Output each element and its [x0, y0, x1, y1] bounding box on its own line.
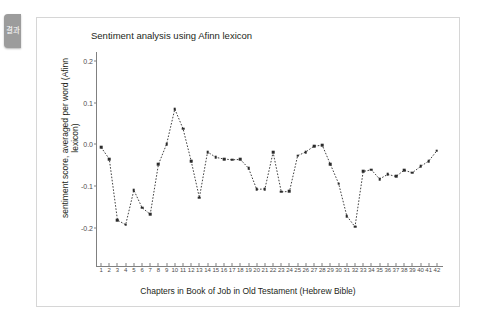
x-axis-tick-label: 28 — [319, 267, 326, 273]
data-point — [247, 167, 250, 170]
y-axis-tick-mark — [94, 61, 97, 62]
x-axis-tick-label: 3 — [116, 267, 119, 273]
x-axis-tick-mark — [305, 263, 306, 266]
data-point — [386, 173, 389, 176]
x-axis-tick-label: 24 — [286, 267, 293, 273]
x-axis-tick-label: 42 — [434, 267, 441, 273]
x-axis-tick-mark — [142, 263, 143, 266]
data-point — [190, 160, 193, 163]
x-axis-tick-mark — [387, 263, 388, 266]
x-axis-tick-label: 8 — [157, 267, 160, 273]
x-axis-tick-mark — [314, 263, 315, 266]
data-point — [223, 158, 226, 161]
x-axis-tick-mark — [256, 263, 257, 266]
data-point — [157, 163, 160, 166]
data-point — [436, 149, 439, 152]
x-axis-tick-mark — [436, 263, 437, 266]
data-point — [305, 151, 308, 154]
chart-panel: Sentiment analysis using Afinn lexicon s… — [36, 17, 460, 307]
data-point — [108, 158, 111, 161]
x-axis-tick-label: 39 — [409, 267, 416, 273]
x-axis-tick-mark — [330, 263, 331, 266]
data-point — [239, 158, 242, 161]
data-point — [427, 160, 430, 163]
x-axis-tick-label: 9 — [165, 267, 168, 273]
data-point — [100, 146, 103, 149]
x-axis-tick-mark — [371, 263, 372, 266]
x-axis-tick-mark — [133, 263, 134, 266]
data-point — [124, 223, 127, 226]
x-axis-tick-label: 31 — [343, 267, 350, 273]
x-axis-tick-mark — [191, 263, 192, 266]
x-axis-tick-label: 13 — [196, 267, 203, 273]
y-axis-tick-mark — [94, 102, 97, 103]
x-axis-tick-mark — [355, 263, 356, 266]
series-polyline — [97, 55, 441, 263]
data-point — [370, 169, 373, 172]
data-point — [395, 175, 398, 178]
x-axis-tick-mark — [338, 263, 339, 266]
x-axis-tick-mark — [420, 263, 421, 266]
data-point — [280, 191, 283, 194]
x-axis-tick-mark — [174, 263, 175, 266]
data-point — [206, 151, 209, 154]
data-point — [419, 165, 422, 168]
x-axis-tick-label: 37 — [393, 267, 400, 273]
slide-surface: 결과 Sentiment analysis using Afinn lexico… — [0, 0, 484, 333]
x-axis-tick-mark — [281, 263, 282, 266]
x-axis-tick-label: 17 — [229, 267, 236, 273]
data-point — [288, 190, 291, 193]
x-axis-tick-mark — [379, 263, 380, 266]
x-axis-title: Chapters in Book of Job in Old Testament… — [37, 286, 459, 296]
x-axis-tick-label: 12 — [188, 267, 195, 273]
x-axis-tick-mark — [101, 263, 102, 266]
x-axis-tick-mark — [428, 263, 429, 266]
x-axis-tick-label: 1 — [99, 267, 102, 273]
x-axis-tick-mark — [264, 263, 265, 266]
x-axis-tick-label: 21 — [262, 267, 269, 273]
data-point — [255, 188, 258, 191]
x-axis-tick-label: 27 — [311, 267, 318, 273]
data-point — [296, 154, 299, 157]
data-point — [321, 144, 324, 147]
x-axis-tick-label: 2 — [108, 267, 111, 273]
data-point — [411, 171, 414, 174]
x-axis-tick-label: 33 — [360, 267, 367, 273]
x-axis-tick-label: 35 — [376, 267, 383, 273]
x-axis-tick-mark — [412, 263, 413, 266]
x-axis-tick-label: 26 — [303, 267, 310, 273]
x-axis-tick-label: 10 — [171, 267, 178, 273]
data-point — [133, 189, 136, 192]
data-point — [378, 178, 381, 181]
series-path — [101, 109, 437, 227]
data-point — [354, 226, 357, 229]
x-axis-tick-label: 7 — [149, 267, 152, 273]
y-axis-tick-mark — [94, 144, 97, 145]
y-axis-tick-mark — [94, 227, 97, 228]
x-axis-tick-label: 22 — [270, 267, 277, 273]
x-axis-tick-mark — [125, 263, 126, 266]
data-point — [337, 182, 340, 185]
x-axis-tick-label: 19 — [245, 267, 252, 273]
x-axis-tick-label: 18 — [237, 267, 244, 273]
side-panel-tab[interactable]: 결과 — [4, 14, 21, 48]
x-axis-tick-mark — [207, 263, 208, 266]
x-axis-tick-label: 16 — [221, 267, 228, 273]
x-axis-tick-label: 5 — [132, 267, 135, 273]
data-point — [346, 215, 349, 218]
x-axis-tick-label: 36 — [384, 267, 391, 273]
x-axis-tick-mark — [297, 263, 298, 266]
plot-area: 0.20.10.0-0.1-0.212345678910111213141516… — [97, 55, 441, 263]
x-axis-tick-mark — [215, 263, 216, 266]
x-axis-tick-mark — [289, 263, 290, 266]
x-axis-tick-mark — [158, 263, 159, 266]
x-axis-tick-mark — [346, 263, 347, 266]
x-axis-tick-mark — [150, 263, 151, 266]
data-point — [272, 151, 275, 154]
x-axis-tick-label: 41 — [425, 267, 432, 273]
data-point — [362, 170, 365, 173]
data-point — [149, 213, 152, 216]
x-axis-tick-label: 14 — [204, 267, 211, 273]
x-axis-tick-mark — [183, 263, 184, 266]
data-point — [174, 108, 177, 111]
